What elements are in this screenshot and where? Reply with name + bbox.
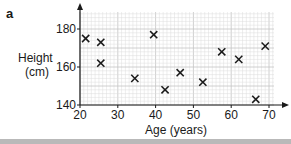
data-point-cross-icon <box>82 35 89 42</box>
x-axis-label: Age (years) <box>145 123 207 137</box>
x-tick-labels: 203040506070 <box>73 108 276 122</box>
y-axis-label: Height (cm) <box>18 51 56 79</box>
y-tick-labels: 140160180 <box>56 22 76 112</box>
data-point-cross-icon <box>252 96 259 103</box>
data-point-cross-icon <box>177 69 184 76</box>
svg-text:140: 140 <box>56 98 76 112</box>
bottom-divider <box>0 139 291 144</box>
data-point-cross-icon <box>97 39 104 46</box>
grid <box>80 12 274 105</box>
svg-text:40: 40 <box>149 108 163 122</box>
svg-text:70: 70 <box>262 108 276 122</box>
svg-text:180: 180 <box>56 22 76 36</box>
svg-text:30: 30 <box>111 108 125 122</box>
scatter-chart: 203040506070 140160180 Age (years) Heigh… <box>0 0 291 144</box>
svg-text:60: 60 <box>225 108 239 122</box>
svg-text:160: 160 <box>56 60 76 74</box>
data-point-cross-icon <box>150 31 157 38</box>
svg-text:50: 50 <box>187 108 201 122</box>
